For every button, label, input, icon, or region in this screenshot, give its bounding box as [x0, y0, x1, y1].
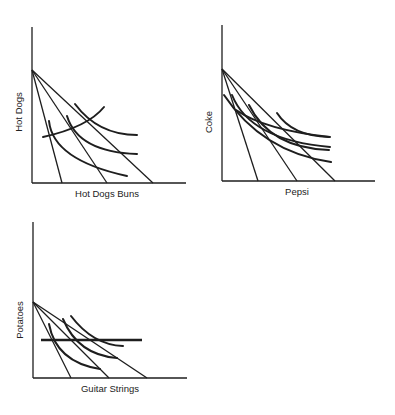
indifference-curve-e	[236, 110, 330, 137]
y-axis-label: Hot Dogs	[13, 92, 24, 132]
budget-line-3	[222, 69, 335, 181]
diagram-canvas: Hot Dogs Buns Hot Dogs Pepsi Coke	[0, 0, 395, 415]
panel-coke-pepsi: Pepsi Coke	[203, 25, 375, 197]
y-axis-label: Potatoes	[14, 301, 25, 339]
y-axis-label: Coke	[203, 111, 214, 133]
x-axis-label: Hot Dogs Buns	[75, 188, 139, 199]
x-axis-label: Guitar Strings	[81, 383, 139, 394]
budget-line-1	[222, 69, 258, 181]
panel-potatoes: Guitar Strings Potatoes	[14, 222, 187, 394]
budget-line-2	[222, 69, 297, 181]
budget-line-1	[32, 70, 62, 183]
x-axis-label: Pepsi	[285, 186, 309, 197]
panel-hot-dogs: Hot Dogs Buns Hot Dogs	[13, 27, 186, 199]
